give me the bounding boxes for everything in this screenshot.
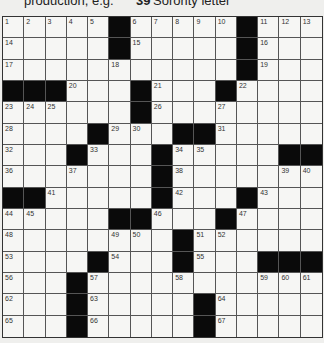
grid-cell[interactable] bbox=[279, 230, 300, 251]
grid-cell[interactable] bbox=[237, 145, 258, 166]
grid-cell[interactable] bbox=[131, 60, 152, 81]
grid-cell[interactable] bbox=[173, 294, 194, 315]
grid-cell[interactable]: 30 bbox=[131, 124, 152, 145]
grid-cell[interactable] bbox=[131, 188, 152, 209]
grid-cell[interactable] bbox=[46, 252, 67, 273]
grid-cell[interactable]: 26 bbox=[152, 102, 173, 123]
grid-cell[interactable] bbox=[194, 188, 215, 209]
grid-cell[interactable] bbox=[46, 294, 67, 315]
grid-cell[interactable]: 57 bbox=[88, 273, 109, 294]
grid-cell[interactable] bbox=[88, 60, 109, 81]
grid-cell[interactable]: 5 bbox=[88, 17, 109, 38]
grid-cell[interactable] bbox=[88, 209, 109, 230]
grid-cell[interactable] bbox=[67, 230, 88, 251]
grid-cell[interactable] bbox=[109, 145, 130, 166]
grid-cell[interactable]: 49 bbox=[109, 230, 130, 251]
grid-cell[interactable] bbox=[152, 273, 173, 294]
grid-cell[interactable] bbox=[131, 166, 152, 187]
grid-cell[interactable] bbox=[258, 124, 279, 145]
grid-cell[interactable]: 61 bbox=[301, 273, 322, 294]
grid-cell[interactable] bbox=[194, 38, 215, 59]
grid-cell[interactable]: 54 bbox=[109, 252, 130, 273]
grid-cell[interactable]: 17 bbox=[3, 60, 24, 81]
grid-cell[interactable] bbox=[173, 38, 194, 59]
grid-cell[interactable] bbox=[216, 60, 237, 81]
grid-cell[interactable]: 11 bbox=[258, 17, 279, 38]
grid-cell[interactable] bbox=[301, 230, 322, 251]
grid-cell[interactable] bbox=[109, 166, 130, 187]
grid-cell[interactable]: 31 bbox=[216, 124, 237, 145]
grid-cell[interactable]: 58 bbox=[173, 273, 194, 294]
grid-cell[interactable]: 19 bbox=[258, 60, 279, 81]
grid-cell[interactable] bbox=[131, 252, 152, 273]
grid-cell[interactable] bbox=[152, 124, 173, 145]
grid-cell[interactable] bbox=[258, 230, 279, 251]
grid-cell[interactable]: 39 bbox=[279, 166, 300, 187]
grid-cell[interactable] bbox=[88, 230, 109, 251]
grid-cell[interactable]: 28 bbox=[3, 124, 24, 145]
grid-cell[interactable] bbox=[24, 124, 45, 145]
grid-cell[interactable] bbox=[279, 188, 300, 209]
grid-cell[interactable] bbox=[216, 273, 237, 294]
grid-cell[interactable] bbox=[279, 102, 300, 123]
grid-cell[interactable]: 44 bbox=[3, 209, 24, 230]
grid-cell[interactable]: 64 bbox=[216, 294, 237, 315]
grid-cell[interactable] bbox=[131, 294, 152, 315]
grid-cell[interactable] bbox=[88, 102, 109, 123]
grid-cell[interactable] bbox=[152, 60, 173, 81]
grid-cell[interactable]: 23 bbox=[3, 102, 24, 123]
grid-cell[interactable] bbox=[46, 166, 67, 187]
grid-cell[interactable]: 63 bbox=[88, 294, 109, 315]
grid-cell[interactable]: 3 bbox=[46, 17, 67, 38]
grid-cell[interactable] bbox=[24, 38, 45, 59]
grid-cell[interactable]: 48 bbox=[3, 230, 24, 251]
grid-cell[interactable] bbox=[258, 294, 279, 315]
grid-cell[interactable] bbox=[24, 230, 45, 251]
grid-cell[interactable] bbox=[24, 145, 45, 166]
grid-cell[interactable]: 43 bbox=[258, 188, 279, 209]
grid-cell[interactable] bbox=[46, 145, 67, 166]
grid-cell[interactable] bbox=[258, 316, 279, 337]
grid-cell[interactable]: 8 bbox=[173, 17, 194, 38]
grid-cell[interactable] bbox=[67, 209, 88, 230]
grid-cell[interactable]: 67 bbox=[216, 316, 237, 337]
grid-cell[interactable] bbox=[194, 102, 215, 123]
grid-cell[interactable] bbox=[279, 209, 300, 230]
grid-cell[interactable] bbox=[88, 38, 109, 59]
grid-cell[interactable] bbox=[46, 230, 67, 251]
grid-cell[interactable] bbox=[131, 316, 152, 337]
grid-cell[interactable] bbox=[46, 124, 67, 145]
grid-cell[interactable] bbox=[301, 209, 322, 230]
grid-cell[interactable]: 36 bbox=[3, 166, 24, 187]
grid-cell[interactable] bbox=[258, 145, 279, 166]
grid-cell[interactable] bbox=[216, 188, 237, 209]
grid-cell[interactable]: 1 bbox=[3, 17, 24, 38]
grid-cell[interactable] bbox=[109, 188, 130, 209]
grid-cell[interactable]: 24 bbox=[24, 102, 45, 123]
grid-cell[interactable] bbox=[237, 294, 258, 315]
grid-cell[interactable] bbox=[216, 252, 237, 273]
grid-cell[interactable] bbox=[194, 166, 215, 187]
grid-cell[interactable] bbox=[301, 102, 322, 123]
grid-cell[interactable] bbox=[194, 273, 215, 294]
grid-cell[interactable] bbox=[67, 38, 88, 59]
grid-cell[interactable] bbox=[131, 145, 152, 166]
grid-cell[interactable]: 18 bbox=[109, 60, 130, 81]
grid-cell[interactable] bbox=[24, 294, 45, 315]
grid-cell[interactable] bbox=[131, 273, 152, 294]
grid-cell[interactable]: 34 bbox=[173, 145, 194, 166]
grid-cell[interactable] bbox=[46, 316, 67, 337]
grid-cell[interactable] bbox=[109, 316, 130, 337]
grid-cell[interactable] bbox=[216, 38, 237, 59]
grid-cell[interactable] bbox=[67, 124, 88, 145]
grid-cell[interactable]: 40 bbox=[301, 166, 322, 187]
grid-cell[interactable]: 2 bbox=[24, 17, 45, 38]
grid-cell[interactable] bbox=[279, 38, 300, 59]
grid-cell[interactable] bbox=[152, 252, 173, 273]
grid-cell[interactable]: 16 bbox=[258, 38, 279, 59]
grid-cell[interactable] bbox=[46, 209, 67, 230]
grid-cell[interactable]: 55 bbox=[194, 252, 215, 273]
grid-cell[interactable] bbox=[88, 166, 109, 187]
grid-cell[interactable] bbox=[173, 60, 194, 81]
grid-cell[interactable]: 46 bbox=[152, 209, 173, 230]
